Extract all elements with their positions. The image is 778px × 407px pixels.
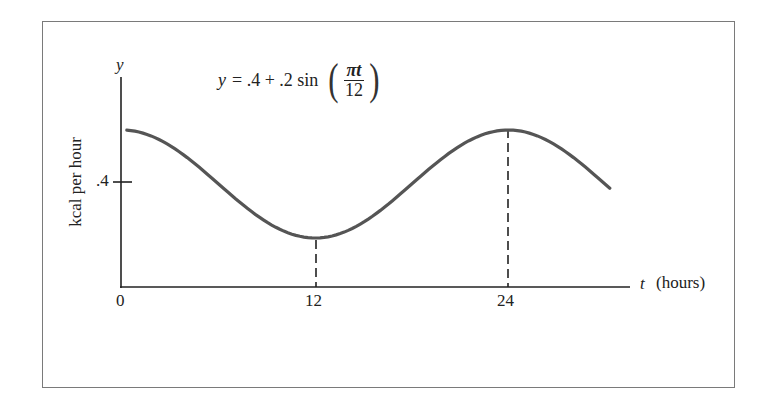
y-axis-label: kcal per hour — [66, 137, 86, 227]
formula-lhs: y — [218, 70, 226, 91]
x-axis-unit: (hours) — [656, 273, 705, 293]
sine-curve — [127, 130, 610, 238]
formula-annotation: y = .4 + .2 sin ( πt 12 ) — [218, 58, 382, 102]
x-tick-label-0: 0 — [116, 291, 125, 311]
x-tick-label-24: 24 — [497, 291, 514, 311]
x-axis-symbol: t — [640, 274, 645, 294]
formula-rhs: = .4 + .2 sin — [232, 70, 318, 91]
formula-fraction: πt 12 — [342, 61, 366, 100]
fraction-denominator: 12 — [342, 81, 366, 100]
fraction-numerator: πt — [344, 61, 365, 81]
y-axis-symbol: y — [116, 55, 124, 75]
right-paren: ) — [369, 58, 379, 102]
x-tick-label-12: 12 — [305, 291, 322, 311]
y-tick-label-04: .4 — [96, 171, 109, 191]
left-paren: ( — [329, 58, 339, 102]
